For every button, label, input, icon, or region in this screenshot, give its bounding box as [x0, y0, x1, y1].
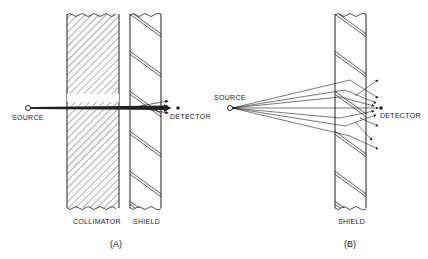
shield-a-block — [120, 4, 175, 237]
shield-b-block — [325, 4, 380, 237]
caption-b: (B) — [344, 239, 356, 249]
collimator-label: COLLIMATOR — [73, 218, 121, 225]
caption-a: (A) — [110, 239, 122, 249]
collimator-block — [67, 14, 119, 210]
shield-label-b: SHIELD — [338, 218, 365, 225]
source-label-a: SOURCE — [12, 114, 44, 121]
detector-label-a: DETECTOR — [170, 113, 211, 120]
shield-label-a: SHIELD — [133, 218, 160, 225]
rays-b — [228, 80, 383, 149]
source-label-b: SOURCE — [214, 94, 246, 101]
detector-label-b: DETECTOR — [380, 112, 421, 119]
